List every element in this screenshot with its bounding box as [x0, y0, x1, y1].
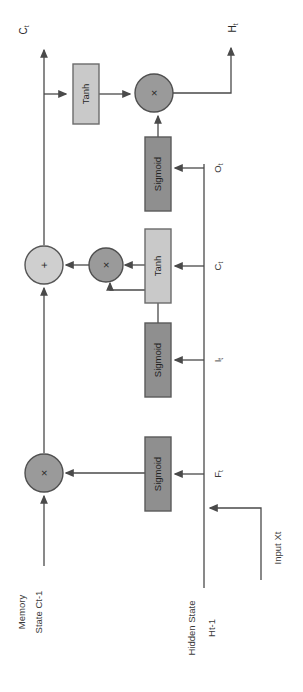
block-label-tanh-output: Tanh	[80, 84, 91, 105]
label-gate-candidate-sub: t	[216, 262, 223, 264]
label-input-xt-text: Input Xt	[272, 531, 283, 564]
operator-multiply-input-gate: ×	[89, 248, 123, 282]
label-output-cell-state-base: C	[18, 27, 29, 34]
block-tanh-candidate: Tanh	[145, 229, 171, 303]
label-output-hidden-state-sub: t	[231, 23, 238, 25]
label-gate-input: It	[212, 358, 224, 363]
block-sigmoid-forget-gate: Sigmoid	[145, 437, 171, 511]
svg-text:Ct: Ct	[212, 262, 224, 271]
svg-text:Ft: Ft	[212, 470, 224, 478]
output-labels: Ct Ht	[18, 23, 239, 34]
label-output-cell-state: Ct	[18, 25, 30, 34]
svg-text:Ht: Ht	[227, 23, 239, 32]
label-output-hidden-state: Ht	[227, 23, 239, 32]
svg-text:It: It	[212, 358, 224, 363]
label-input-hidden-line1: Hidden State	[186, 601, 197, 656]
label-gate-output-sub: t	[216, 163, 223, 165]
svg-text:Ct: Ct	[18, 25, 30, 34]
block-sigmoid-input-gate: Sigmoid	[145, 323, 171, 397]
block-label-sigmoid-forget-gate: Sigmoid	[152, 457, 163, 491]
operator-symbol-multiply-input-gate: ×	[100, 262, 112, 268]
operator-symbol-multiply-output: ×	[148, 90, 160, 96]
line-mult-out-to-ht	[173, 48, 231, 93]
gate-blocks: Tanh Sigmoid Tanh Sigmoid Sigmoid	[73, 64, 171, 511]
label-gate-output-base: O	[212, 165, 223, 172]
operator-multiply-forget-gate: ×	[25, 454, 63, 492]
lstm-diagram-canvas: Tanh Sigmoid Tanh Sigmoid Sigmoid	[0, 0, 303, 692]
svg-text:Ot: Ot	[212, 163, 224, 172]
operator-symbol-add-cell-state: +	[38, 262, 50, 268]
block-sigmoid-output-gate: Sigmoid	[145, 137, 171, 211]
label-gate-candidate: Ct	[212, 262, 224, 271]
label-input-memory-state: Memory State Ct-1	[16, 591, 44, 634]
block-tanh-output: Tanh	[73, 64, 99, 124]
line-input-xt	[210, 508, 261, 580]
block-label-tanh-candidate: Tanh	[152, 256, 163, 277]
block-label-sigmoid-output-gate: Sigmoid	[152, 157, 163, 191]
label-input-memory-line2: State Ct-1	[33, 591, 44, 634]
label-gate-input-sub: t	[216, 358, 223, 360]
label-output-cell-state-sub: t	[22, 25, 29, 27]
label-gate-forget-sub: t	[216, 470, 223, 472]
label-input-hidden-state: Hidden State Ht-1	[186, 601, 217, 656]
label-input-memory-line1: Memory	[16, 595, 27, 630]
gate-annotation-labels: Ot Ct It Ft	[212, 163, 224, 478]
label-gate-output: Ot	[212, 163, 224, 172]
label-input-xt: Input Xt	[272, 531, 283, 564]
label-output-hidden-state-base: H	[227, 25, 238, 32]
input-labels: Memory State Ct-1 Hidden State Ht-1 Inpu…	[16, 531, 283, 655]
block-label-sigmoid-input-gate: Sigmoid	[152, 343, 163, 377]
operator-multiply-output: ×	[135, 74, 173, 112]
label-gate-forget: Ft	[212, 470, 224, 478]
operator-symbol-multiply-forget-gate: ×	[38, 470, 50, 476]
operator-add-cell-state: +	[25, 246, 63, 284]
lstm-diagram: Tanh Sigmoid Tanh Sigmoid Sigmoid	[0, 0, 303, 692]
label-input-hidden-line2: Ht-1	[206, 619, 217, 637]
